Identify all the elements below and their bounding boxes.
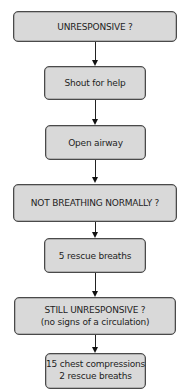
arrow-airway-to-not-breathing <box>95 160 96 177</box>
node-unresponsive-label: UNRESPONSIVE ? <box>57 21 132 33</box>
arrow-still-unresponsive-to-cpr <box>95 335 96 347</box>
arrowhead-icon <box>92 177 98 183</box>
arrow-rescue-to-still-unresponsive <box>95 273 96 291</box>
node-still-unresponsive: STILL UNRESPONSIVE ? (no signs of a circ… <box>14 297 176 335</box>
node-shout-label: Shout for help <box>65 77 126 89</box>
node-still-unresponsive-line1: STILL UNRESPONSIVE ? <box>45 304 146 316</box>
arrow-not-breathing-to-rescue <box>95 222 96 232</box>
node-still-unresponsive-line2: (no signs of a circulation) <box>41 316 150 328</box>
arrow-shout-to-airway <box>95 100 96 119</box>
arrow-unresponsive-to-shout <box>95 42 96 60</box>
node-shout: Shout for help <box>44 66 146 100</box>
node-not-breathing-label: NOT BREATHING NORMALLY ? <box>31 197 159 209</box>
node-cpr: 15 chest compressions 2 rescue breaths <box>45 353 146 389</box>
node-rescue-breaths: 5 rescue breaths <box>44 238 146 273</box>
node-cpr-line2: 2 rescue breaths <box>59 370 131 382</box>
node-airway: Open airway <box>45 125 146 160</box>
node-unresponsive: UNRESPONSIVE ? <box>13 11 177 42</box>
node-airway-label: Open airway <box>68 137 123 149</box>
node-rescue-breaths-label: 5 rescue breaths <box>59 250 131 262</box>
node-cpr-line1: 15 chest compressions <box>46 358 145 370</box>
node-not-breathing: NOT BREATHING NORMALLY ? <box>13 184 177 222</box>
